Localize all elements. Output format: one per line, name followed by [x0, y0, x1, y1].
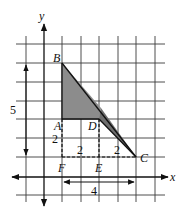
point-label-f: F — [57, 161, 66, 175]
geometry-diagram: x y B A D C F E 5 2 2 2 4 — [0, 0, 183, 210]
measurement-ec-2: 2 — [114, 143, 120, 157]
measurement-fe-2: 2 — [77, 143, 83, 157]
point-label-e: E — [94, 161, 103, 175]
y-axis-label: y — [38, 9, 45, 23]
point-label-d: D — [87, 119, 97, 133]
point-label-b: B — [53, 51, 61, 65]
measurement-4: 4 — [91, 184, 97, 198]
point-label-a: A — [53, 119, 62, 133]
measurement-5: 5 — [10, 103, 16, 117]
measurement-af-2: 2 — [52, 132, 58, 146]
x-axis-label: x — [169, 170, 176, 184]
point-label-c: C — [140, 151, 149, 165]
